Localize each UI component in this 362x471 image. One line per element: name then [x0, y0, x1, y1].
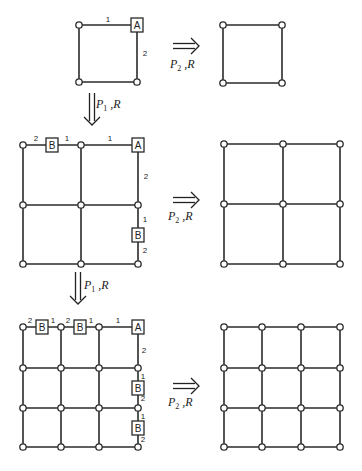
grid-node [96, 405, 102, 411]
grid-node [76, 79, 82, 85]
grid-node [76, 22, 82, 28]
edge-weight: 2 [141, 435, 146, 444]
grid-node [135, 444, 141, 450]
box-label: B [77, 322, 84, 333]
grid-refinement-diagram: A12P2 ,RBAB211212P2 ,RBBABB2121121212P2 … [0, 0, 362, 471]
edge-weight: 1 [116, 316, 121, 325]
grid-node [20, 365, 26, 371]
box-label: B [135, 423, 142, 434]
grid-node [58, 444, 64, 450]
node-box-b: B [132, 228, 144, 242]
edge-weight: 1 [141, 412, 146, 421]
arrow-head [84, 117, 100, 125]
stage-1-input-grid: A12 [76, 15, 148, 86]
stage-1-output-grid [220, 22, 285, 86]
grid-node [337, 365, 343, 371]
grid-node [298, 444, 304, 450]
rule-label: P2 ,R [167, 395, 193, 411]
grid-node [20, 405, 26, 411]
grid-node [20, 142, 26, 148]
rule-label: P2 ,R [169, 57, 195, 73]
grid-node [337, 141, 343, 147]
arrow-head [191, 38, 199, 54]
rule-label: P1 ,R [83, 278, 109, 294]
edge-weight: 2 [142, 346, 147, 355]
edge-weight: 2 [143, 49, 148, 58]
grid-node [221, 365, 227, 371]
grid-node [135, 202, 141, 208]
node-box-b: B [74, 320, 86, 334]
stage-3-input-grid: BBABB2121121212 [20, 316, 147, 451]
grid-node [221, 201, 227, 207]
grid-node [20, 202, 26, 208]
arrow-head [191, 192, 199, 208]
grid-node [259, 444, 265, 450]
edge-weight: 2 [144, 172, 149, 181]
edge-weight: 2 [141, 394, 146, 403]
implies-arrow-icon [173, 378, 199, 394]
grid-node [78, 261, 84, 267]
grid-node [259, 405, 265, 411]
node-box-a: A [132, 138, 144, 152]
grid-node [279, 80, 285, 86]
edge-weight: 1 [89, 316, 94, 325]
edge-weight: 2 [28, 316, 33, 325]
grid-node [337, 405, 343, 411]
edge-weight: 1 [106, 15, 111, 24]
node-box-b: B [132, 421, 144, 435]
grid-node [58, 324, 64, 330]
grid-node [280, 201, 286, 207]
grid-node [78, 202, 84, 208]
grid-node [96, 365, 102, 371]
grid-node [220, 22, 226, 28]
grid-node [337, 201, 343, 207]
arrow-head [191, 378, 199, 394]
grid-node [221, 444, 227, 450]
grid-node [279, 22, 285, 28]
rule-label: P2 ,R [167, 209, 193, 225]
rule-label: P1 ,R [95, 97, 121, 113]
grid-node [337, 324, 343, 330]
arrow-head [70, 296, 86, 304]
grid-node [135, 405, 141, 411]
grid-node [337, 261, 343, 267]
grid-node [20, 261, 26, 267]
grid-node [135, 261, 141, 267]
node-box-a: A [132, 320, 144, 334]
node-box-b: B [36, 320, 48, 334]
grid-node [220, 80, 226, 86]
box-label: B [49, 140, 56, 151]
edge-weight: 2 [34, 134, 39, 143]
grid-node [259, 365, 265, 371]
box-label: B [135, 383, 142, 394]
grid-node [58, 365, 64, 371]
implies-arrow-icon [173, 192, 199, 208]
grid-node [298, 365, 304, 371]
grid-node [20, 324, 26, 330]
grid-node [135, 365, 141, 371]
grid-node [134, 79, 140, 85]
box-label: A [134, 20, 141, 31]
grid-node [280, 141, 286, 147]
grid-node [337, 444, 343, 450]
edge-weight: 1 [141, 372, 146, 381]
grid-node [259, 324, 265, 330]
edge-weight: 2 [66, 316, 71, 325]
grid-node [78, 142, 84, 148]
grid-node [58, 405, 64, 411]
box-label: B [39, 322, 46, 333]
grid-node [280, 261, 286, 267]
box-label: B [135, 230, 142, 241]
box-label: A [135, 322, 142, 333]
node-box-b: B [46, 138, 58, 152]
stage-2-output-grid [221, 141, 343, 267]
grid-node [221, 141, 227, 147]
grid-node [96, 324, 102, 330]
edge-weight: 1 [51, 316, 56, 325]
grid-node [221, 324, 227, 330]
grid-node [298, 324, 304, 330]
grid-node [221, 405, 227, 411]
implies-arrow-icon [173, 38, 199, 54]
node-box-a: A [131, 18, 143, 32]
grid-node [298, 405, 304, 411]
